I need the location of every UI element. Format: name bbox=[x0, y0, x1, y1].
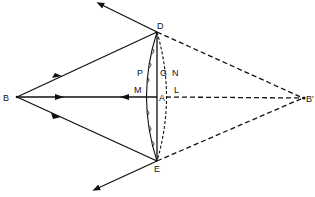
incident-arrowheads bbox=[51, 73, 129, 119]
label-b: B bbox=[3, 93, 9, 103]
label-d: D bbox=[157, 21, 164, 31]
label-b-prime: B' bbox=[306, 94, 314, 104]
label-l: L bbox=[174, 85, 179, 95]
ray-d-reflected bbox=[100, 4, 157, 32]
incident-rays bbox=[17, 32, 157, 161]
label-a: A bbox=[159, 93, 165, 103]
label-e: E bbox=[154, 164, 160, 174]
virtual-ray-e-to-bprime bbox=[157, 98, 303, 161]
arrow-icon bbox=[55, 94, 64, 100]
ray-b-to-e bbox=[17, 97, 157, 161]
virtual-ray-a-to-bprime bbox=[166, 97, 303, 98]
arrow-icon bbox=[120, 94, 129, 100]
ray-e-reflected bbox=[96, 161, 157, 189]
label-n: N bbox=[172, 68, 179, 78]
virtual-rays bbox=[157, 32, 303, 161]
label-m: M bbox=[134, 85, 142, 95]
optics-diagram: B B' D E A M P G N L bbox=[0, 0, 315, 197]
point-b bbox=[16, 96, 19, 99]
label-p: P bbox=[137, 68, 143, 78]
label-g: G bbox=[160, 68, 167, 78]
